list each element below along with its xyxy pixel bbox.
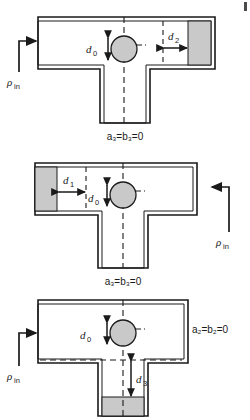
panel-bottom: d 0 d 3 ρ in a₂=b₂=0 [6, 300, 229, 416]
blockage-left-arm [35, 167, 57, 211]
obstruction-circle [110, 320, 136, 346]
label-d0-base: d [86, 43, 92, 55]
inlet-label-sub: in [14, 376, 20, 385]
inlet-label-rho: ρ [215, 236, 221, 248]
label-d3-base: d [136, 373, 142, 385]
label-d2-base: d [168, 30, 174, 42]
label-d2-sub: 2 [175, 36, 179, 45]
inlet-flow-arrow [19, 333, 36, 366]
inlet-label-sub: in [14, 82, 20, 91]
label-d0-base: d [88, 192, 94, 204]
label-d1-base: d [63, 174, 69, 186]
label-d0-base: d [80, 329, 86, 341]
obstruction-circle [111, 36, 137, 62]
inlet-flow-arrow [19, 41, 36, 72]
panel-top: d 0 d 2 ρ in a₃=b₃=0 [6, 17, 215, 142]
inlet-label-rho: ρ [6, 370, 12, 382]
label-d0-sub: 0 [93, 49, 97, 58]
duct-outline-outer [35, 163, 197, 268]
figure-panel-group: d 0 d 2 ρ in a₃=b₃=0 d 1 d 0 [0, 0, 250, 420]
inlet-flow-arrow [212, 187, 229, 232]
blockage-right-arm [188, 21, 211, 65]
label-d1-sub: 1 [70, 180, 74, 189]
page-corner-mark [244, 2, 247, 11]
label-d0-sub: 0 [95, 198, 99, 207]
label-d3-sub: 3 [143, 379, 147, 388]
label-d0-sub: 0 [87, 335, 91, 344]
panel-middle-caption: a₃=b₃=0 [105, 276, 142, 287]
inlet-label-sub: in [223, 242, 229, 251]
panel-bottom-side-label: a₂=b₂=0 [192, 324, 229, 335]
panel-top-caption: a₃=b₃=0 [107, 131, 144, 142]
obstruction-circle [110, 182, 136, 208]
inlet-label-rho: ρ [6, 76, 12, 88]
panel-middle: d 1 d 0 ρ in a₃=b₃=0 [35, 163, 229, 287]
